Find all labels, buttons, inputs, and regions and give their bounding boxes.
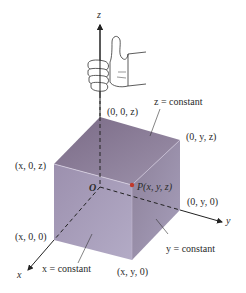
origin-label: O xyxy=(89,183,96,193)
x-constant-label: x = constant xyxy=(42,264,91,274)
z-constant-label: z = constant xyxy=(154,97,202,107)
vertex-0-0-z: (0, 0, z) xyxy=(107,107,138,117)
vertex-0-y-0: (0, y, 0) xyxy=(187,197,218,207)
vertex-x-0-z: (x, 0, z) xyxy=(15,161,46,171)
vertex-x-y-0: (x, y, 0) xyxy=(117,267,148,277)
point-p-marker xyxy=(130,183,134,187)
point-p-label: P(x, y, z) xyxy=(137,182,172,192)
x-axis-label: x xyxy=(17,270,21,280)
coordinate-cube-diagram: z y x O P(x, y, z) (0, 0, z) (0, y, z) (… xyxy=(0,0,246,293)
y-axis-label: y xyxy=(226,216,230,226)
y-axis xyxy=(180,210,222,222)
right-hand-icon xyxy=(88,36,146,91)
z-axis-label: z xyxy=(97,10,101,20)
vertex-0-y-z: (0, y, z) xyxy=(186,132,216,142)
vertex-x-0-0: (x, 0, 0) xyxy=(15,232,47,242)
y-constant-label: y = constant xyxy=(166,244,215,254)
